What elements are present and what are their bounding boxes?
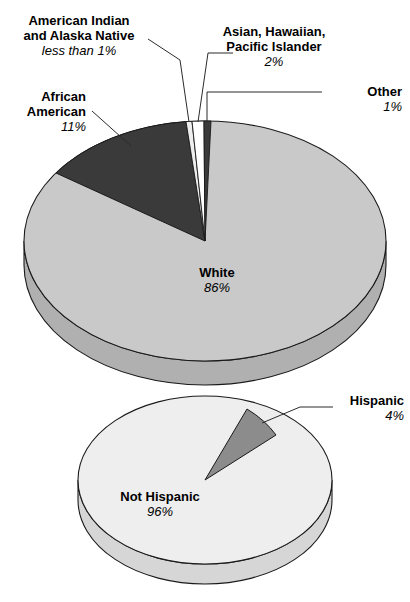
- race-label-asian-percent: 2%: [211, 54, 337, 69]
- race-label-american-indian: American Indian and Alaska Native less t…: [10, 13, 148, 58]
- race-label-african-american: African American 11%: [2, 89, 86, 134]
- race-label-asian-line1: Asian, Hawaiian,: [211, 24, 337, 39]
- race-label-american-indian-percent: less than 1%: [10, 43, 148, 58]
- race-label-other-line1: Other: [256, 84, 402, 99]
- ethnicity-label-hispanic-line1: Hispanic: [268, 393, 404, 408]
- race-label-african-american-line1: African: [2, 89, 86, 104]
- race-label-white-percent: 86%: [175, 280, 259, 295]
- race-label-white-line1: White: [175, 265, 259, 280]
- race-label-asian: Asian, Hawaiian, Pacific Islander 2%: [211, 24, 337, 69]
- ethnicity-label-not-hispanic-line1: Not Hispanic: [98, 489, 222, 504]
- race-label-african-american-percent: 11%: [2, 119, 86, 134]
- race-label-african-american-line2: American: [2, 104, 86, 119]
- ethnicity-label-not-hispanic-percent: 96%: [98, 504, 222, 519]
- ethnicity-label-not-hispanic: Not Hispanic 96%: [98, 489, 222, 519]
- race-label-other-percent: 1%: [256, 99, 402, 114]
- ethnicity-label-hispanic-percent: 4%: [268, 408, 404, 423]
- race-label-white: White 86%: [175, 265, 259, 295]
- race-leader-line-american-indian: [148, 39, 189, 122]
- ethnicity-label-hispanic: Hispanic 4%: [268, 393, 404, 423]
- race-label-american-indian-line1: American Indian: [10, 13, 148, 28]
- race-label-asian-line2: Pacific Islander: [211, 39, 337, 54]
- race-label-other: Other 1%: [256, 84, 402, 114]
- race-label-american-indian-line2: and Alaska Native: [10, 28, 148, 43]
- pie-chart-figure: American Indian and Alaska Native less t…: [0, 0, 410, 602]
